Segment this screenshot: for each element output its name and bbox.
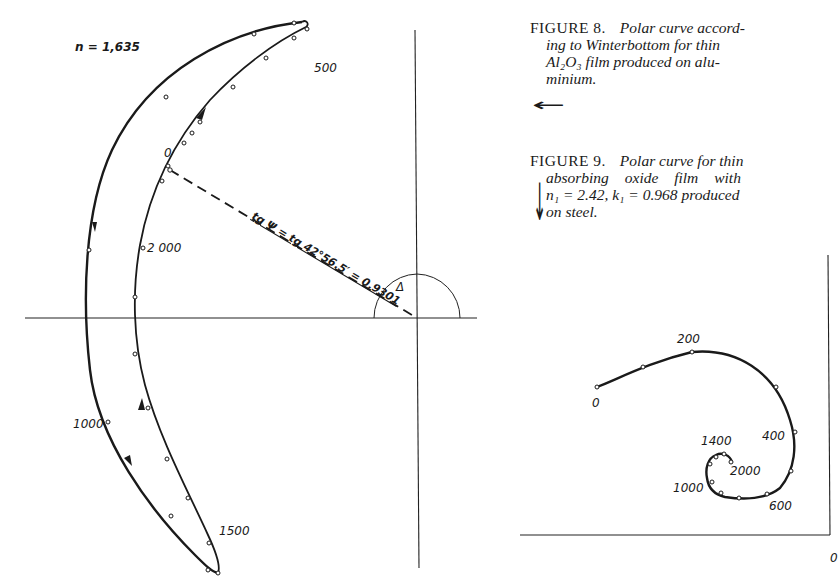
fig9-data-markers bbox=[595, 350, 797, 500]
figure-9-caption: FIGURE 9. Polar curve for thin absorbing… bbox=[530, 152, 743, 220]
fig9-vertical-axis bbox=[828, 255, 830, 535]
figure-9-down-arrow-icon: ↓ bbox=[533, 172, 546, 233]
figure-9-caption-line-3: n₁ = 2.42, k₁ = 0.968 produced bbox=[530, 186, 743, 203]
figure-9-label: FIGURE 9. bbox=[530, 152, 606, 169]
fig9-label-1400: 1400 bbox=[701, 434, 732, 448]
fig9-axis-origin-label: 0 bbox=[830, 551, 838, 565]
fig9-spiral-curve bbox=[597, 352, 794, 499]
fig9-label-600: 600 bbox=[769, 499, 792, 513]
fig9-label-200: 200 bbox=[677, 332, 700, 346]
fig9-start-label: 0 bbox=[592, 396, 600, 410]
figure-8-left-arrow-icon: ← bbox=[532, 94, 565, 115]
figure-8-caption-line-3: Al₂O₃ film produced on alu- bbox=[530, 53, 745, 70]
fig9-label-400: 400 bbox=[762, 429, 785, 443]
figure-8-caption-line-1: Polar curve accord- bbox=[620, 19, 745, 36]
figure-9-polar-chart: 0 200 400 600 1000 1400 2000 0 bbox=[0, 0, 840, 582]
figure-8-caption: FIGURE 8. Polar curve accord- ing to Win… bbox=[530, 19, 745, 87]
fig9-label-2000: 2000 bbox=[730, 464, 761, 478]
figure-9-caption-line-4: on steel. bbox=[530, 203, 743, 220]
figure-9-caption-line-1: Polar curve for thin bbox=[620, 152, 744, 169]
fig9-label-1000: 1000 bbox=[673, 481, 704, 495]
figure-8-caption-line-2: ing to Winterbottom for thin bbox=[530, 36, 745, 53]
figure-8-label: FIGURE 8. bbox=[530, 19, 606, 36]
figure-8-caption-line-4: minium. bbox=[530, 70, 745, 87]
figure-9-caption-line-2: absorbing oxide film with bbox=[530, 169, 743, 186]
